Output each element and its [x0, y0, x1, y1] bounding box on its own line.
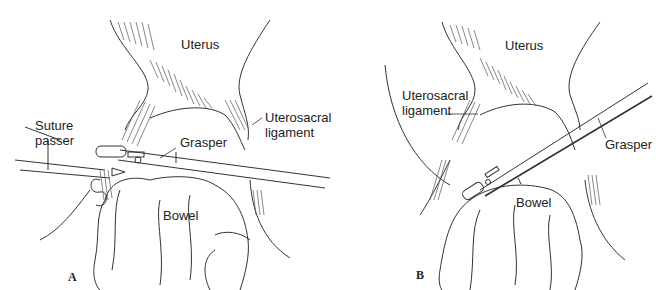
- label-uterus: Uterus: [181, 37, 219, 52]
- label-bowel: Bowel: [163, 208, 198, 223]
- label-uterosacral-line1: Uterosacral: [402, 88, 468, 103]
- panel-label-b: B: [416, 268, 424, 283]
- figure-caption-truncated: [0, 283, 661, 290]
- label-uterosacral-line2: ligament: [265, 125, 314, 140]
- label-bowel: Bowel: [516, 195, 551, 210]
- label-uterus: Uterus: [505, 38, 543, 53]
- label-grasper: Grasper: [180, 135, 227, 150]
- label-grasper: Grasper: [605, 137, 652, 152]
- label-suture-passer-line1: Suture: [35, 118, 73, 133]
- label-uterosacral-line1: Uterosacral: [265, 110, 331, 125]
- label-suture-passer-line2: passer: [35, 133, 74, 148]
- figure-panel-a: Uterus Uterosacral ligament Suture passe…: [0, 0, 330, 290]
- figure-panel-b: Uterus Uterosacral ligament Grasper Bowe…: [330, 0, 661, 290]
- label-uterosacral-line2: ligament: [402, 103, 451, 118]
